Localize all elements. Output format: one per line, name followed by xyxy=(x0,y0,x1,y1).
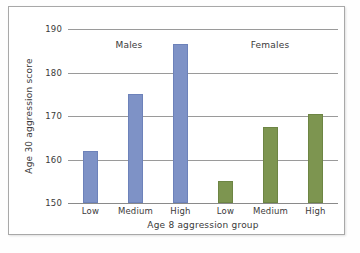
x-tick-label-females-low: Low xyxy=(217,206,234,216)
gridline-160: 160 xyxy=(68,160,338,161)
chart-frame: Age 30 aggression score Age 8 aggression… xyxy=(8,6,345,235)
bar-females-high[interactable] xyxy=(308,114,323,203)
bar-males-low[interactable] xyxy=(83,151,98,203)
gridline-150-axis: 150 xyxy=(68,203,338,204)
plot-area: 190 180 170 160 150 Low Medium xyxy=(68,29,338,203)
bar-males-high[interactable] xyxy=(173,44,188,203)
x-tick-label-males-medium: Medium xyxy=(118,206,153,216)
bar-males-medium[interactable] xyxy=(128,94,143,203)
x-tick-label-females-medium: Medium xyxy=(253,206,288,216)
y-tick-label-160: 160 xyxy=(45,155,62,165)
x-tick-label-females-high: High xyxy=(305,206,325,216)
bar-females-low[interactable] xyxy=(218,181,233,203)
gridline-190: 190 xyxy=(68,29,338,30)
y-tick-label-150: 150 xyxy=(45,198,62,208)
x-tick-label-males-low: Low xyxy=(82,206,99,216)
y-tick-label-190: 190 xyxy=(45,24,62,34)
x-tick-label-males-high: High xyxy=(170,206,190,216)
x-axis-title: Age 8 aggression group xyxy=(147,220,258,230)
y-tick-label-180: 180 xyxy=(45,68,62,78)
chart-figure: Age 30 aggression score Age 8 aggression… xyxy=(0,0,360,253)
gridline-170: 170 xyxy=(68,116,338,117)
y-tick-label-170: 170 xyxy=(45,111,62,121)
y-axis-title: Age 30 aggression score xyxy=(24,58,34,173)
bar-females-medium[interactable] xyxy=(263,127,278,203)
gridline-180: 180 xyxy=(68,73,338,74)
